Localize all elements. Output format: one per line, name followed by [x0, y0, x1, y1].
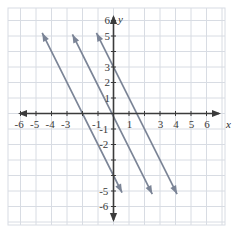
y-tick-label-neg6: -6: [99, 201, 108, 212]
x-tick-label-neg5: -5: [30, 119, 39, 130]
x-tick-label-5: 5: [189, 119, 195, 130]
x-tick-label-neg4: -4: [46, 119, 55, 130]
x-tick-label-1: 1: [127, 119, 133, 130]
y-axis-label: y: [118, 14, 123, 25]
y-tick-label-2: 2: [105, 77, 111, 88]
x-tick-label-neg6: -6: [15, 119, 24, 130]
x-tick-label-6: 6: [204, 119, 210, 130]
y-tick-label-neg2: -2: [99, 139, 108, 150]
y-tick-label-neg5: -5: [99, 186, 108, 197]
y-tick-label-6: 6: [105, 15, 111, 26]
x-tick-label-neg3: -3: [61, 119, 70, 130]
y-tick-label-neg1: -1: [99, 124, 108, 135]
coordinate-graph: -6-5-4-3-11345665321-1-2-5-6 x y: [0, 0, 239, 237]
y-tick-label-1: 1: [105, 93, 111, 104]
x-tick-label-4: 4: [173, 119, 179, 130]
x-tick-label-3: 3: [158, 119, 164, 130]
y-tick-label-5: 5: [105, 31, 111, 42]
y-tick-label-3: 3: [105, 62, 111, 73]
x-axis-label: x: [226, 119, 231, 130]
